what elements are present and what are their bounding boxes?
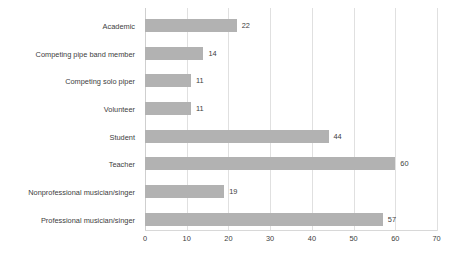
x-tick-label: 70 bbox=[432, 234, 440, 244]
bar[interactable] bbox=[145, 74, 191, 87]
category-label: Student bbox=[0, 134, 135, 142]
category-label: Nonprofessional musician/singer bbox=[0, 189, 135, 197]
category-label: Competing pipe band member bbox=[0, 51, 135, 59]
bar-row: 11 bbox=[145, 102, 437, 115]
x-axis-labels: 0 10 20 30 40 50 60 70 bbox=[145, 234, 437, 248]
bar[interactable] bbox=[145, 47, 203, 60]
plot-area: 22 14 11 11 44 60 19 57 bbox=[145, 8, 437, 231]
bar-row: 57 bbox=[145, 213, 437, 226]
category-label: Teacher bbox=[0, 161, 135, 169]
x-tick-label: 30 bbox=[266, 234, 274, 244]
bar-value-label: 11 bbox=[196, 104, 204, 113]
bar-value-label: 14 bbox=[208, 49, 216, 58]
bar-row: 44 bbox=[145, 130, 437, 143]
bar-value-label: 22 bbox=[242, 21, 250, 30]
x-tick-label: 20 bbox=[224, 234, 232, 244]
category-label: Academic bbox=[0, 23, 135, 31]
bar-row: 19 bbox=[145, 185, 437, 198]
category-label: Competing solo piper bbox=[0, 78, 135, 86]
x-axis-baseline bbox=[145, 230, 437, 231]
bar[interactable] bbox=[145, 102, 191, 115]
bar-value-label: 60 bbox=[400, 159, 408, 168]
x-tick-label: 40 bbox=[308, 234, 316, 244]
category-label: Volunteer bbox=[0, 106, 135, 114]
bar[interactable] bbox=[145, 213, 383, 226]
bar-row: 60 bbox=[145, 157, 437, 170]
x-tick-label: 0 bbox=[143, 234, 147, 244]
bar-row: 11 bbox=[145, 74, 437, 87]
bar[interactable] bbox=[145, 130, 329, 143]
x-tick-label: 60 bbox=[391, 234, 399, 244]
category-axis-labels: Academic Competing pipe band member Comp… bbox=[0, 8, 140, 231]
x-tick-label: 10 bbox=[183, 234, 191, 244]
bar-value-label: 57 bbox=[388, 215, 396, 224]
bar-row: 14 bbox=[145, 47, 437, 60]
category-label: Professional musician/singer bbox=[0, 217, 135, 225]
bar-row: 22 bbox=[145, 19, 437, 32]
bar-value-label: 44 bbox=[334, 132, 342, 141]
bar-chart: Academic Competing pipe band member Comp… bbox=[0, 0, 453, 270]
bar[interactable] bbox=[145, 19, 237, 32]
bar-value-label: 11 bbox=[196, 76, 204, 85]
x-tick-label: 50 bbox=[349, 234, 357, 244]
bar-value-label: 19 bbox=[229, 187, 237, 196]
bar[interactable] bbox=[145, 157, 395, 170]
bar[interactable] bbox=[145, 185, 224, 198]
